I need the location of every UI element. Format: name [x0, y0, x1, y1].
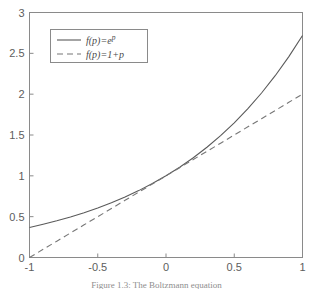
- x-axis-tick-labels: -1-0.500.51: [25, 261, 306, 273]
- y-tick-label: 2.5: [9, 47, 24, 59]
- y-tick-label: 0: [18, 252, 24, 264]
- legend-label-linear: f(p)=1+p: [86, 49, 124, 61]
- legend: f(p)=ep f(p)=1+p: [51, 30, 148, 63]
- x-tick-label: 0.5: [227, 261, 242, 273]
- figure-container: -1-0.500.51 00.511.522.53 f(p)=ep f(p)=1…: [0, 0, 313, 289]
- y-tick-label: 1: [18, 170, 24, 182]
- y-tick-label: 0.5: [9, 211, 24, 223]
- y-axis-ticks: [30, 13, 34, 258]
- exponential-vs-linear-plot: -1-0.500.51 00.511.522.53 f(p)=ep f(p)=1…: [0, 0, 313, 289]
- x-tick-label: -1: [25, 261, 35, 273]
- data-curves: [30, 36, 303, 258]
- x-axis-ticks: [30, 254, 303, 258]
- x-tick-label: -0.5: [88, 261, 107, 273]
- curve-exponential: [30, 36, 303, 228]
- x-tick-label: 1: [299, 261, 305, 273]
- y-tick-label: 3: [18, 7, 24, 19]
- y-tick-label: 2: [18, 88, 24, 100]
- y-axis-tick-labels: 00.511.522.53: [9, 7, 24, 264]
- figure-caption: Figure 1.3: The Boltzmann equation: [0, 280, 313, 289]
- legend-label-exponential: f(p)=ep: [86, 32, 116, 47]
- y-tick-label: 1.5: [9, 129, 24, 141]
- x-tick-label: 0: [163, 261, 169, 273]
